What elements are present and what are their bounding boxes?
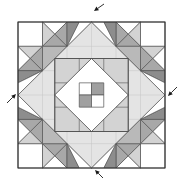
star-block-top-right [141,22,166,46]
quilt-pattern-svg [0,0,179,181]
star-block-bottom-left [18,144,43,168]
checkerboard-cell [79,95,91,107]
checkerboard-cell [92,95,104,107]
checkerboard-cell [92,83,104,95]
checkerboard-cell [79,83,91,95]
quilt-illustration [0,0,179,181]
star-block-top-left [18,22,43,46]
star-block-bottom-right [141,144,166,168]
